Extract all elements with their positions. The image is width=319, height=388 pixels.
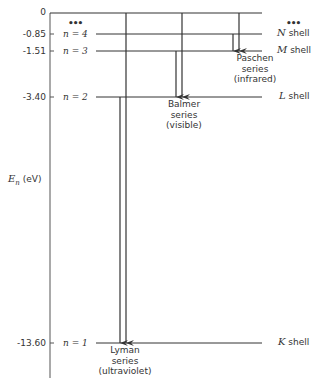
lyman-region: (ultraviolet) <box>95 366 155 377</box>
balmer-series-label: Balmer series (visible) <box>159 99 209 131</box>
level-n4-text: n = 4 <box>63 29 88 39</box>
y-axis-subscript: n <box>15 179 20 187</box>
shell-label-k: K shell <box>278 337 309 347</box>
shell-label-n: N shell <box>277 28 310 38</box>
axis-ticks <box>50 34 54 343</box>
paschen-word: series <box>225 64 285 75</box>
balmer-name: Balmer <box>159 99 209 110</box>
lyman-name: Lyman <box>95 345 155 356</box>
level-n1-text: n = 1 <box>63 338 88 348</box>
balmer-word: series <box>159 110 209 121</box>
level-label-n3: n = 3 <box>63 46 88 56</box>
level-label-n4: n = 4 <box>63 29 88 39</box>
level-n3-text: n = 3 <box>63 46 88 56</box>
paschen-name: Paschen <box>225 53 285 64</box>
ellipsis-left: ••• <box>68 20 82 26</box>
ellipsis-right: ••• <box>286 20 300 26</box>
lyman-word: series <box>95 356 155 367</box>
shell-word-k: shell <box>288 337 309 347</box>
tick-label-n3: -1.51 <box>6 46 46 56</box>
tick-label-n1: -13.60 <box>6 338 46 348</box>
shell-word-m: shell <box>290 45 311 55</box>
paschen-series-label: Paschen series (infrared) <box>225 53 285 85</box>
shell-label-l: L shell <box>279 91 309 101</box>
level-n2-text: n = 2 <box>63 92 88 102</box>
level-label-n1: n = 1 <box>63 338 88 348</box>
shell-word-n: shell <box>289 28 310 38</box>
shell-letter-k: K <box>278 336 285 347</box>
shell-letter-l: L <box>279 90 286 101</box>
shell-word-l: shell <box>289 91 310 101</box>
tick-label-n4: -0.85 <box>6 29 46 39</box>
level-label-n2: n = 2 <box>63 92 88 102</box>
shell-letter-n: N <box>277 27 286 38</box>
tick-label-0: 0 <box>6 7 46 17</box>
lyman-series-label: Lyman series (ultraviolet) <box>95 345 155 377</box>
paschen-region: (infrared) <box>225 74 285 85</box>
tick-label-n2: -3.40 <box>6 92 46 102</box>
y-axis-label: En (eV) <box>8 174 41 188</box>
y-axis-unit: (eV) <box>23 174 42 184</box>
balmer-region: (visible) <box>159 120 209 131</box>
